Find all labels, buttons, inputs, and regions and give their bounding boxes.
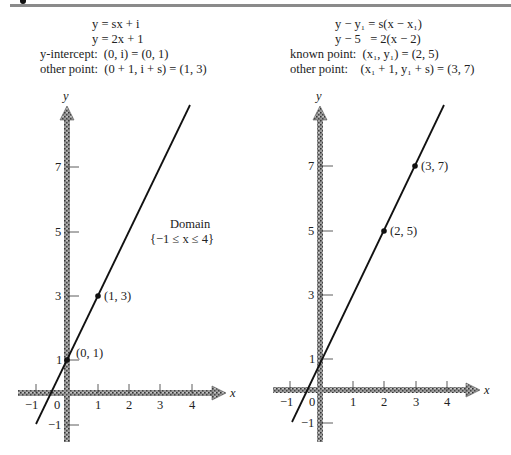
right-x-tick: 0: [309, 395, 315, 409]
left-y-label: y: [61, 89, 69, 103]
graphs: y x −1 0 1 2 3 4 7 5 3 1 −1: [0, 0, 511, 455]
left-line: [36, 105, 190, 424]
right-y-tick: −1: [301, 416, 314, 430]
point-label: (0, 1): [76, 346, 103, 360]
left-x-tick: 1: [95, 398, 101, 412]
right-x-axis: [273, 387, 473, 393]
point-2-5: [381, 228, 387, 234]
right-x-tick: 1: [350, 395, 356, 409]
right-y-arrow-icon: [313, 106, 327, 120]
left-x-label: x: [229, 386, 236, 400]
right-x-tick: 3: [413, 395, 419, 409]
right-x-tick: −1: [280, 395, 293, 409]
right-line: [292, 105, 444, 422]
right-y-tick: 7: [308, 159, 314, 173]
left-x-tick: 0: [54, 398, 60, 412]
point-label: (2, 5): [390, 224, 417, 238]
point-0-1: [64, 357, 70, 363]
left-y-tick: −1: [48, 418, 61, 432]
left-x-tick: −1: [25, 398, 38, 412]
right-x-tick: 4: [444, 395, 451, 409]
right-y-tick: 1: [309, 352, 315, 366]
point-label: (1, 3): [104, 289, 131, 303]
left-x-tick: 4: [189, 398, 196, 412]
left-graph: y x −1 0 1 2 3 4 7 5 3 1 −1: [18, 89, 236, 442]
left-y-tick: 1: [56, 353, 62, 367]
right-y-label: y: [314, 89, 322, 103]
right-x-arrow-icon: [466, 383, 480, 397]
right-x-tick: 2: [381, 395, 387, 409]
left-x-tick: 2: [126, 398, 132, 412]
left-x-tick: 3: [157, 398, 163, 412]
left-y-tick: 3: [55, 289, 61, 303]
right-y-tick: 3: [308, 288, 314, 302]
point-1-3: [95, 293, 101, 299]
point-label: (3, 7): [421, 159, 448, 173]
domain-title: Domain: [170, 217, 211, 231]
left-y-arrow-icon: [60, 106, 74, 120]
right-graph: y x −1 0 1 2 3 4 7 5 3 1 −1: [273, 89, 490, 442]
right-x-label: x: [483, 383, 490, 397]
left-y-tick: 7: [55, 160, 61, 174]
left-y-tick: 5: [55, 225, 61, 239]
left-x-axis: [18, 390, 218, 396]
left-x-arrow-icon: [212, 386, 226, 400]
right-y-tick: 5: [308, 224, 314, 238]
point-3-7: [412, 163, 418, 169]
domain-range: {−1 ≤ x ≤ 4}: [150, 232, 214, 246]
